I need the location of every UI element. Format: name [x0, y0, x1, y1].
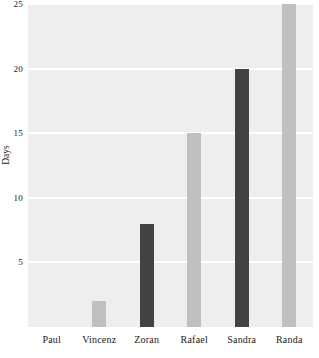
bar-sandra[interactable] — [235, 69, 249, 327]
bar-vincenz[interactable] — [92, 301, 106, 327]
gridline — [28, 132, 313, 134]
x-tick-label-randa: Randa — [276, 334, 303, 345]
y-axis-ticks: 510152025 — [0, 0, 28, 331]
x-tick-label-sandra: Sandra — [227, 334, 256, 345]
gridline — [28, 4, 313, 5]
plot-area — [28, 4, 313, 327]
bar-rafael[interactable] — [187, 133, 201, 327]
bar-randa[interactable] — [282, 4, 296, 327]
gridline — [28, 68, 313, 70]
y-tick-label: 5 — [18, 257, 23, 267]
x-tick-label-paul: Paul — [42, 334, 61, 345]
gridline — [28, 261, 313, 263]
y-tick-label: 20 — [14, 64, 23, 74]
y-tick-label: 25 — [14, 0, 23, 9]
y-tick-label: 10 — [14, 193, 23, 203]
bar-zoran[interactable] — [140, 224, 154, 327]
gridline — [28, 197, 313, 199]
x-tick-label-zoran: Zoran — [134, 334, 159, 345]
x-tick-label-rafael: Rafael — [181, 334, 208, 345]
x-tick-label-vincenz: Vincenz — [82, 334, 116, 345]
bar-chart: Days 510152025 PaulVincenzZoranRafaelSan… — [0, 0, 319, 358]
y-tick-label: 15 — [14, 128, 23, 138]
x-axis-labels: PaulVincenzZoranRafaelSandraRanda — [28, 334, 313, 354]
